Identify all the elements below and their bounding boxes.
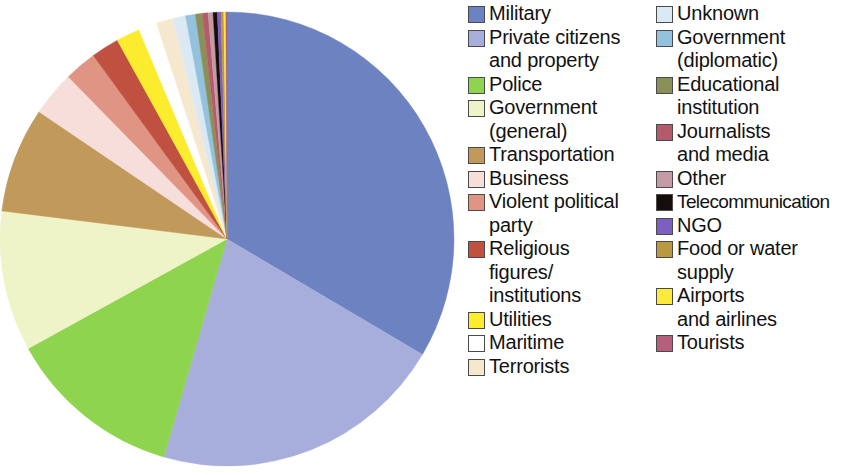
legend-swatch-icon <box>468 359 485 376</box>
legend-item[interactable]: Religious figures/ institutions <box>468 237 656 308</box>
legend-item[interactable]: Telecommunication <box>656 190 854 214</box>
legend-item[interactable]: Utilities <box>468 308 656 332</box>
legend-swatch-icon <box>468 241 485 258</box>
legend-swatch-icon <box>656 241 673 258</box>
legend: MilitaryPrivate citizens and propertyPol… <box>460 0 862 475</box>
legend-item[interactable]: Private citizens and property <box>468 26 656 73</box>
legend-item-label: Police <box>489 73 542 97</box>
legend-item[interactable]: Maritime <box>468 331 656 355</box>
legend-item[interactable]: Other <box>656 167 854 191</box>
legend-item[interactable]: Government (general) <box>468 96 656 143</box>
legend-item[interactable]: Terrorists <box>468 355 656 379</box>
legend-item[interactable]: Government (diplomatic) <box>656 26 854 73</box>
legend-item-label: Military <box>489 2 551 26</box>
legend-swatch-icon <box>468 171 485 188</box>
legend-item[interactable]: Military <box>468 2 656 26</box>
legend-item-label: NGO <box>677 214 722 238</box>
legend-item-label: Maritime <box>489 331 564 355</box>
legend-swatch-icon <box>656 171 673 188</box>
legend-swatch-icon <box>468 312 485 329</box>
legend-item-label: Food or water supply <box>677 237 798 284</box>
legend-swatch-icon <box>656 335 673 352</box>
legend-swatch-icon <box>468 147 485 164</box>
legend-item-label: Telecommunication <box>677 190 829 214</box>
legend-swatch-icon <box>656 124 673 141</box>
pie-chart-svg <box>0 0 460 475</box>
legend-swatch-icon <box>468 30 485 47</box>
legend-item-label: Other <box>677 167 726 191</box>
legend-item[interactable]: Transportation <box>468 143 656 167</box>
legend-item-label: Government (diplomatic) <box>677 26 785 73</box>
legend-swatch-icon <box>656 288 673 305</box>
legend-item-label: Religious figures/ institutions <box>489 237 581 308</box>
legend-item-label: Transportation <box>489 143 614 167</box>
legend-item[interactable]: Business <box>468 167 656 191</box>
legend-swatch-icon <box>656 30 673 47</box>
legend-item-label: Violent political party <box>489 190 619 237</box>
legend-swatch-icon <box>468 335 485 352</box>
legend-item[interactable]: NGO <box>656 214 854 238</box>
legend-item-label: Private citizens and property <box>489 26 620 73</box>
legend-item[interactable]: Journalists and media <box>656 120 854 167</box>
legend-item[interactable]: Airports and airlines <box>656 284 854 331</box>
legend-swatch-icon <box>468 6 485 23</box>
pie-chart-area <box>0 0 460 475</box>
legend-item-label: Government (general) <box>489 96 597 143</box>
legend-item[interactable]: Educational institution <box>656 73 854 120</box>
legend-swatch-icon <box>656 218 673 235</box>
legend-item[interactable]: Unknown <box>656 2 854 26</box>
legend-item-label: Educational institution <box>677 73 779 120</box>
legend-swatch-icon <box>656 77 673 94</box>
legend-swatch-icon <box>468 194 485 211</box>
legend-item-label: Unknown <box>677 2 759 26</box>
legend-swatch-icon <box>656 6 673 23</box>
legend-swatch-icon <box>656 194 673 211</box>
pie-chart-figure: MilitaryPrivate citizens and propertyPol… <box>0 0 862 475</box>
pie-slice-group <box>0 12 454 466</box>
legend-item-label: Tourists <box>677 331 744 355</box>
legend-item[interactable]: Tourists <box>656 331 854 355</box>
legend-swatch-icon <box>468 100 485 117</box>
legend-swatch-icon <box>468 77 485 94</box>
legend-column-right: UnknownGovernment (diplomatic)Educationa… <box>656 2 854 475</box>
legend-item[interactable]: Violent political party <box>468 190 656 237</box>
legend-item-label: Journalists and media <box>677 120 770 167</box>
legend-item[interactable]: Food or water supply <box>656 237 854 284</box>
legend-column-left: MilitaryPrivate citizens and propertyPol… <box>460 2 656 475</box>
legend-item-label: Business <box>489 167 569 191</box>
legend-item-label: Utilities <box>489 308 552 332</box>
legend-item-label: Terrorists <box>489 355 569 379</box>
legend-item-label: Airports and airlines <box>677 284 777 331</box>
legend-item[interactable]: Police <box>468 73 656 97</box>
